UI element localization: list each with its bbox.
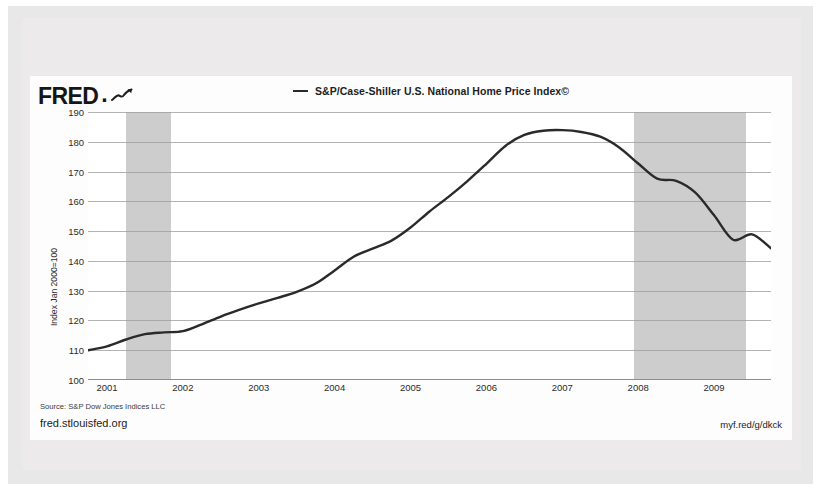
x-tick-2002: 2002 — [172, 382, 193, 393]
y-axis-label: Index Jan 2000=100 — [49, 217, 59, 357]
x-tick-2007: 2007 — [552, 382, 573, 393]
plot-region — [88, 112, 771, 380]
y-tick-100: 100 — [68, 375, 84, 386]
series-line-case-shiller — [88, 112, 771, 380]
y-tick-120: 120 — [68, 315, 84, 326]
x-tick-2008: 2008 — [628, 382, 649, 393]
fred-graph-card: FRED . S&P/Case-Shiller U.S. National Ho… — [30, 76, 792, 440]
y-tick-140: 140 — [68, 255, 84, 266]
x-tick-2004: 2004 — [324, 382, 345, 393]
legend-label: S&P/Case-Shiller U.S. National Home Pric… — [315, 85, 569, 97]
y-tick-160: 160 — [68, 196, 84, 207]
legend-entry-0: S&P/Case-Shiller U.S. National Home Pric… — [293, 85, 569, 97]
x-axis-line — [88, 379, 771, 380]
fred-url[interactable]: fred.stlouisfed.org — [40, 417, 127, 429]
x-axis: 200120022003200420052006200720082009 — [88, 382, 771, 398]
legend-swatch-icon — [293, 90, 308, 93]
y-tick-130: 130 — [68, 285, 84, 296]
y-tick-170: 170 — [68, 166, 84, 177]
source-note: Source: S&P Dow Jones Indices LLC — [40, 402, 165, 411]
chart-legend: S&P/Case-Shiller U.S. National Home Pric… — [30, 85, 792, 97]
y-tick-150: 150 — [68, 226, 84, 237]
y-tick-110: 110 — [69, 345, 84, 356]
x-tick-2001: 2001 — [96, 382, 117, 393]
y-axis: 190 180 170 160 150 140 130 120 110 100 … — [42, 112, 84, 380]
y-tick-180: 180 — [68, 136, 84, 147]
y-tick-190: 190 — [68, 107, 84, 118]
short-url[interactable]: myf.red/g/dkck — [720, 419, 782, 430]
x-tick-2005: 2005 — [400, 382, 421, 393]
x-tick-2009: 2009 — [704, 382, 725, 393]
screenshot-page: FRED . S&P/Case-Shiller U.S. National Ho… — [0, 0, 821, 492]
x-tick-2003: 2003 — [248, 382, 269, 393]
x-tick-2006: 2006 — [476, 382, 497, 393]
plot-area[interactable] — [88, 112, 771, 380]
chart-header: FRED . S&P/Case-Shiller U.S. National Ho… — [30, 76, 792, 108]
